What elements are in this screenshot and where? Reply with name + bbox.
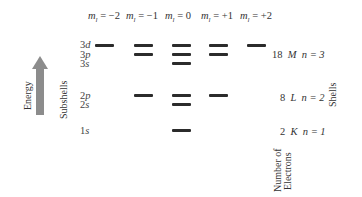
ml-symbol: m xyxy=(126,10,134,21)
ml-subscript: l xyxy=(134,16,136,24)
electron-count: 8 xyxy=(280,92,285,103)
orbital-3d-ml-0 xyxy=(172,44,191,47)
shell-n: n = 1 xyxy=(303,126,326,137)
shells-label: Shells xyxy=(327,83,338,107)
ml-symbol: m xyxy=(201,10,209,21)
shell-label-K: 2 K n = 1 xyxy=(280,126,326,137)
ml-symbol: m xyxy=(165,10,173,21)
shell-label-M: 18 M n = 3 xyxy=(272,49,325,60)
energy-arrow-shaft xyxy=(36,68,44,115)
orbital-3d-ml-minus1 xyxy=(134,44,153,47)
ml-subscript: l xyxy=(96,16,98,24)
subshell-label-3s: 3s xyxy=(80,59,89,69)
ml-header-minus2: ml = −2 xyxy=(88,10,120,24)
shell-letter: L xyxy=(291,92,297,103)
ml-header-plus1: ml = +1 xyxy=(201,10,233,24)
orbital-3d-ml-plus1 xyxy=(209,44,228,47)
orbital-1s-ml-0 xyxy=(172,129,191,132)
ml-value: = −2 xyxy=(100,10,120,21)
subshell-label-1s: 1s xyxy=(80,126,89,136)
orbital-3d-ml-minus2 xyxy=(95,44,114,47)
orbital-3p-ml-minus1 xyxy=(134,53,153,56)
subshells-label: Subshells xyxy=(58,81,69,119)
orbital-2p-ml-plus1 xyxy=(209,94,228,97)
electron-count: 18 xyxy=(272,49,283,60)
orbital-3p-ml-0 xyxy=(172,53,191,56)
ml-symbol: m xyxy=(240,10,248,21)
ml-subscript: l xyxy=(248,16,250,24)
orbital-3d-ml-plus2 xyxy=(247,44,266,47)
ml-subscript: l xyxy=(209,16,211,24)
orbital-2p-ml-minus1 xyxy=(134,94,153,97)
shell-label-L: 8 L n = 2 xyxy=(280,92,324,103)
ml-header-plus2: ml = +2 xyxy=(240,10,272,24)
orbital-2s-ml-0 xyxy=(172,103,191,106)
ml-symbol: m xyxy=(88,10,96,21)
orbital-2p-ml-0 xyxy=(172,94,191,97)
orbital-3p-ml-plus1 xyxy=(209,53,228,56)
subshell-label-2s: 2s xyxy=(80,100,89,110)
ml-value: = 0 xyxy=(177,10,191,21)
shell-n: n = 2 xyxy=(302,92,325,103)
ml-value: = +1 xyxy=(213,10,233,21)
shell-letter: K xyxy=(291,126,298,137)
ml-value: = +2 xyxy=(252,10,272,21)
shell-n: n = 3 xyxy=(302,49,325,60)
electron-count: 2 xyxy=(280,126,285,137)
ml-subscript: l xyxy=(173,16,175,24)
ml-header-0: ml = 0 xyxy=(165,10,191,24)
orbital-3s-ml-0 xyxy=(172,62,191,65)
shell-letter: M xyxy=(288,49,297,60)
ml-header-minus1: ml = −1 xyxy=(126,10,158,24)
electrons-label-line2: Electrons xyxy=(282,152,293,190)
energy-label: Energy xyxy=(22,81,33,110)
ml-value: = −1 xyxy=(138,10,158,21)
